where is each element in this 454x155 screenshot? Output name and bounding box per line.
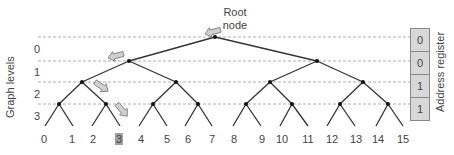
address-register-label: Address register: [434, 32, 446, 112]
arrow-icon: [92, 78, 111, 95]
level-label-2: 2: [34, 88, 40, 100]
root-node-label: Root node: [215, 6, 255, 32]
register-bit-0: 0: [411, 29, 429, 52]
leaf-label: 6: [185, 133, 191, 145]
arrow-icon: [113, 101, 131, 120]
root-label-line2: node: [215, 19, 255, 32]
leaf-label: 9: [259, 133, 265, 145]
leaf-label: 15: [397, 133, 409, 145]
leaf-label: 11: [302, 133, 313, 145]
address-register: 0 0 1 1: [410, 28, 430, 121]
leaf-label: 10: [276, 133, 288, 145]
level-label-3: 3: [34, 110, 40, 122]
leaf-label: 8: [231, 133, 237, 145]
leaf-label: 5: [164, 133, 170, 145]
traversal-arrows: [92, 25, 222, 119]
root-label-line1: Root: [215, 6, 255, 19]
leaf-label: 7: [209, 133, 215, 145]
graph-levels-axis-label: Graph levels: [4, 56, 16, 118]
level-label-0: 0: [34, 43, 40, 55]
leaf-label: 0: [41, 133, 47, 145]
leaf-label: 12: [326, 133, 338, 145]
register-bit-3: 1: [411, 98, 429, 120]
level-lines: [38, 37, 410, 104]
leaf-label: 4: [138, 133, 144, 145]
leaf-label-highlighted: 3: [115, 133, 123, 145]
level-label-1: 1: [34, 66, 40, 78]
leaf-label: 13: [350, 133, 362, 145]
leaf-label: 14: [372, 133, 384, 145]
register-bit-1: 0: [411, 52, 429, 75]
leaf-label: 1: [69, 133, 75, 145]
leaf-label: 2: [90, 133, 96, 145]
register-bit-2: 1: [411, 75, 429, 98]
